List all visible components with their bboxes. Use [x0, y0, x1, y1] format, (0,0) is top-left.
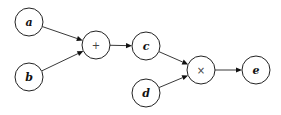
arrowhead-icon	[126, 43, 132, 48]
edge-c-to-times	[159, 52, 183, 62]
times-operator-label: ×	[197, 65, 205, 76]
edge-b-to-plus	[42, 54, 78, 71]
computational-graph: a b + c d × e	[0, 0, 281, 115]
node-e-label: e	[253, 64, 260, 77]
arrowhead-icon	[236, 67, 242, 72]
node-plus: +	[82, 31, 110, 59]
node-c: c	[132, 32, 160, 60]
node-times: ×	[187, 56, 215, 84]
nodes-layer: a b + c d × e	[15, 8, 270, 107]
node-b: b	[15, 63, 43, 91]
node-d-label: d	[142, 87, 150, 100]
node-a-label: a	[25, 16, 32, 29]
edge-a-to-plus	[42, 27, 77, 39]
node-b-label: b	[25, 71, 33, 84]
arrowhead-icon	[76, 36, 83, 41]
node-d: d	[132, 79, 160, 107]
plus-operator-label: +	[92, 40, 100, 51]
edge-d-to-times	[159, 78, 183, 88]
node-a: a	[15, 8, 43, 36]
node-c-label: c	[143, 40, 150, 53]
node-e: e	[242, 56, 270, 84]
